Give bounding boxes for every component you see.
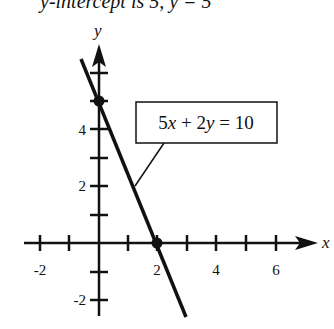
x-axis-label: x bbox=[321, 233, 330, 252]
coordinate-plane: -2 2 4 6 -2 2 4 x y 5x + 2y = 10 bbox=[0, 0, 334, 329]
callout-leader bbox=[135, 143, 164, 186]
x-tick-label: -2 bbox=[34, 262, 47, 278]
equation-label: 5x + 2y = 10 bbox=[158, 112, 253, 133]
x-intercept-point bbox=[152, 238, 163, 249]
y-tick-label: 2 bbox=[79, 178, 87, 194]
y-tick-label: 4 bbox=[79, 122, 87, 138]
y-intercept-point bbox=[94, 96, 105, 107]
y-tick-label: -2 bbox=[74, 292, 87, 308]
y-axis-label: y bbox=[92, 21, 102, 40]
x-tick-label: 6 bbox=[272, 262, 280, 278]
x-tick-label: 4 bbox=[212, 262, 220, 278]
x-tick-label: 2 bbox=[153, 262, 161, 278]
